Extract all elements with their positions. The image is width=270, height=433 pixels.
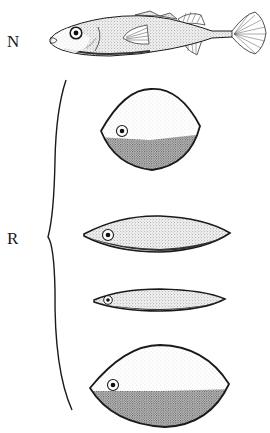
- figure-canvas: [0, 0, 270, 433]
- natural-fish: [50, 11, 266, 56]
- brace: [48, 80, 72, 410]
- replica-round: [95, 85, 205, 175]
- replica-elongated: [84, 216, 230, 252]
- replica-thin: [94, 289, 225, 311]
- replica-oval: [85, 340, 235, 430]
